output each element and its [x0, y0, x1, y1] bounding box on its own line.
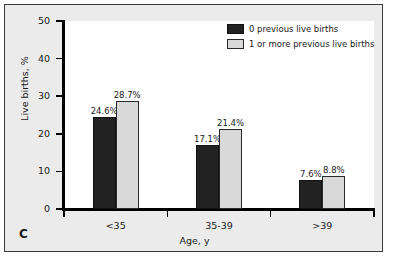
legend-label: 1 or more previous live births: [249, 39, 374, 49]
y-axis-tick-label: 40: [10, 54, 50, 64]
x-axis-tick: [373, 210, 375, 217]
legend-item: 0 previous live births: [227, 22, 374, 36]
legend-swatch-light-icon: [227, 39, 244, 49]
y-axis-tick: [56, 171, 63, 173]
y-axis-tick-label: 50: [10, 16, 50, 26]
x-axis-tick: [63, 210, 65, 217]
bar: [322, 176, 345, 209]
legend-item: 1 or more previous live births: [227, 37, 374, 51]
bar: [93, 117, 116, 209]
x-axis-tick-label: >39: [282, 220, 362, 231]
legend-swatch-dark-icon: [227, 24, 244, 34]
bar: [299, 180, 322, 209]
y-axis-tick: [56, 20, 63, 22]
bar: [196, 145, 219, 209]
x-axis-tick: [270, 210, 272, 217]
bar-value-label: 8.8%: [311, 165, 357, 175]
bar: [219, 129, 242, 209]
y-axis-tick: [56, 133, 63, 135]
y-axis-tick-label: 20: [10, 129, 50, 139]
y-axis-line: [62, 20, 65, 210]
y-axis-tick: [56, 58, 63, 60]
y-axis-tick: [56, 95, 63, 97]
y-axis-tick-label: 30: [10, 91, 50, 101]
bar: [116, 101, 139, 209]
bar-value-label: 21.4%: [208, 118, 254, 128]
legend-label: 0 previous live births: [249, 24, 338, 34]
y-axis-title: Live births, %: [19, 34, 30, 144]
x-axis-title: Age, y: [5, 235, 384, 246]
y-axis-tick-label: 0: [10, 204, 50, 214]
chart-legend: 0 previous live births1 or more previous…: [227, 22, 374, 52]
x-axis-tick-label: <35: [76, 220, 156, 231]
bar-value-label: 28.7%: [104, 90, 150, 100]
y-axis-tick-label: 10: [10, 166, 50, 176]
x-axis-tick: [167, 210, 169, 217]
x-axis-tick-label: 35-39: [179, 220, 259, 231]
figure-panel: 01020304050 Live births, % <3535-39>39 A…: [4, 4, 383, 252]
y-axis-tick: [56, 208, 63, 210]
panel-label: C: [19, 227, 28, 241]
